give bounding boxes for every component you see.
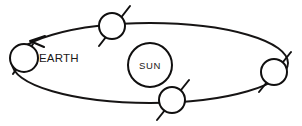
earth-circle-left — [10, 44, 38, 72]
orbital-diagram-canvas: SUN EARTH — [0, 0, 302, 126]
earth-circle-bottom — [159, 87, 185, 113]
earth-circle-right — [261, 59, 287, 85]
orbit-diagram-svg: SUN EARTH — [0, 0, 302, 126]
sun-label: SUN — [139, 60, 161, 71]
earth-label: EARTH — [39, 52, 79, 64]
earth-circle-top — [99, 13, 125, 39]
